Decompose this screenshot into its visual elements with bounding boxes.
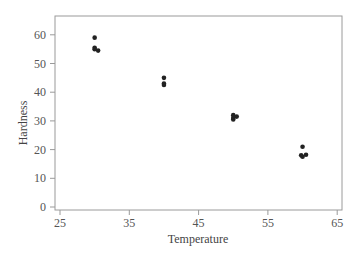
y-tick-label: 20 [34,143,46,157]
scatter-chart: 0102030405060 2535455565 Temperature Har… [0,0,359,255]
data-point [96,48,101,53]
data-point [300,144,305,149]
data-points [92,35,308,159]
x-tick-label: 55 [262,216,274,230]
x-tick-label: 45 [193,216,205,230]
y-axis: 0102030405060 [34,28,55,214]
x-axis-title: Temperature [168,232,228,246]
y-tick-label: 30 [34,114,46,128]
x-tick-label: 35 [123,216,135,230]
y-tick-label: 60 [34,28,46,42]
x-tick-label: 65 [331,216,343,230]
data-point [162,83,167,88]
y-tick-label: 50 [34,57,46,71]
data-point [231,117,236,122]
y-tick-label: 10 [34,171,46,185]
y-tick-label: 0 [40,200,46,214]
data-point [162,76,167,81]
data-point [304,152,309,157]
data-point [92,35,97,40]
x-axis: 2535455565 [54,210,343,230]
y-tick-label: 40 [34,85,46,99]
x-tick-label: 25 [54,216,66,230]
y-axis-title: Hardness [16,100,30,145]
plot-frame [55,16,342,210]
